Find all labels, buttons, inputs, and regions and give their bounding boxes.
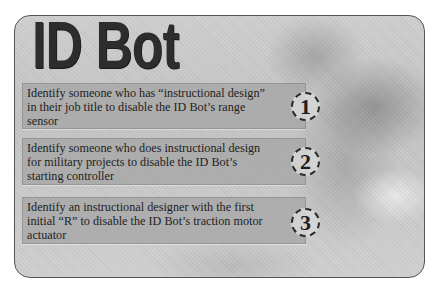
- task-box-3: Identify an instructional designer with …: [22, 197, 306, 244]
- id-bot-card: ID Bot Identify someone who has “instruc…: [14, 15, 425, 278]
- task-box-2: Identify someone who does instructional …: [22, 138, 306, 185]
- task-text-1: Identify someone who has “instructional …: [23, 84, 305, 130]
- task-text-2: Identify someone who does instructional …: [23, 139, 305, 185]
- card-title: ID Bot: [32, 15, 179, 78]
- number-badge-1: 1: [291, 92, 320, 121]
- task-text-3: Identify an instructional designer with …: [23, 198, 305, 244]
- number-badge-3: 3: [291, 208, 320, 237]
- task-box-1: Identify someone who has “instructional …: [22, 83, 306, 129]
- number-badge-2: 2: [291, 147, 320, 176]
